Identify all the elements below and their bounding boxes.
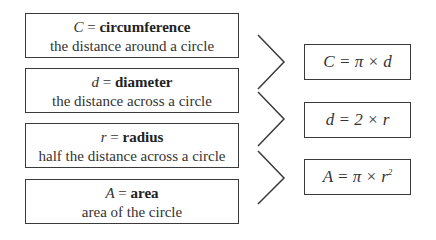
- formula-area: A = π × r2: [304, 159, 411, 195]
- formula-text: d = 2 × r: [326, 110, 390, 129]
- formula-text: A = π × r: [323, 167, 388, 186]
- chevron-icon: [258, 35, 284, 89]
- formula-text: C = π × d: [323, 52, 391, 71]
- chevron-icon: [258, 92, 284, 146]
- formula-diameter: d = 2 × r: [304, 102, 411, 138]
- chevron-icon: [258, 151, 284, 204]
- formula-circumference: C = π × d: [304, 44, 411, 80]
- exponent: 2: [388, 167, 393, 177]
